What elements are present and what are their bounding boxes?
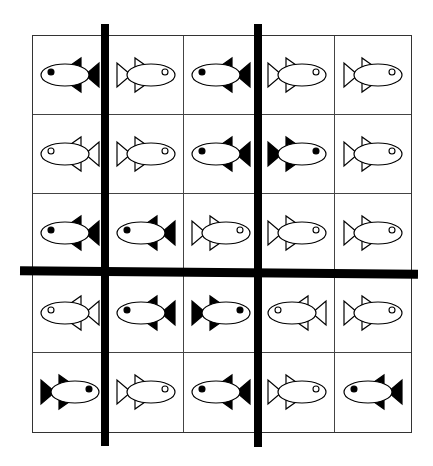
grid-cell-r4-c4 [260,274,336,353]
grid-cell-r5-c5 [335,353,411,432]
grid-cell-r2-c2 [109,115,185,194]
grid-cell-r3-c1 [33,194,109,273]
grid-cell-r3-c3 [184,194,260,273]
white-fish-right-icon [340,50,406,100]
white-fish-left-icon [264,288,330,338]
white-fish-right-icon [340,129,406,179]
grid-cell-r4-c3 [184,274,260,353]
black-fish-left-icon [37,208,103,258]
grid-cell-r1-c1 [33,36,109,115]
black-fish-left-icon [188,129,254,179]
black-fish-right-icon [37,367,103,417]
black-fish-left-icon [37,50,103,100]
grid-cell-r4-c2 [109,274,185,353]
white-fish-right-icon [113,129,179,179]
grid-cell-r4-c1 [33,274,109,353]
grid-cell-r5-c1 [33,353,109,432]
vertical-divider-line [101,24,109,446]
black-fish-left-icon [188,50,254,100]
white-fish-right-icon [188,208,254,258]
white-fish-right-icon [264,367,330,417]
grid-cell-r1-c5 [335,36,411,115]
white-fish-right-icon [264,50,330,100]
white-fish-right-icon [264,208,330,258]
black-fish-left-icon [113,288,179,338]
black-fish-right-icon [188,288,254,338]
grid-cell-r2-c5 [335,115,411,194]
fish-grid [32,35,412,433]
grid-cell-r2-c3 [184,115,260,194]
vertical-divider-line [254,24,262,447]
grid-cell-r3-c5 [335,194,411,273]
grid-cell-r5-c3 [184,353,260,432]
black-fish-left-icon [188,367,254,417]
grid-cell-r3-c2 [109,194,185,273]
white-fish-right-icon [113,50,179,100]
grid-cell-r1-c2 [109,36,185,115]
grid-cell-r4-c5 [335,274,411,353]
grid-cell-r3-c4 [260,194,336,273]
white-fish-right-icon [340,208,406,258]
white-fish-right-icon [340,288,406,338]
white-fish-left-icon [37,288,103,338]
black-fish-left-icon [340,367,406,417]
grid-cell-r5-c2 [109,353,185,432]
grid-cell-r5-c4 [260,353,336,432]
grid-cell-r1-c3 [184,36,260,115]
black-fish-left-icon [113,208,179,258]
white-fish-right-icon [113,367,179,417]
white-fish-left-icon [37,129,103,179]
grid-cell-r1-c4 [260,36,336,115]
grid-cell-r2-c1 [33,115,109,194]
grid-cell-r2-c4 [260,115,336,194]
fish-puzzle-stage [0,0,433,466]
black-fish-right-icon [264,129,330,179]
